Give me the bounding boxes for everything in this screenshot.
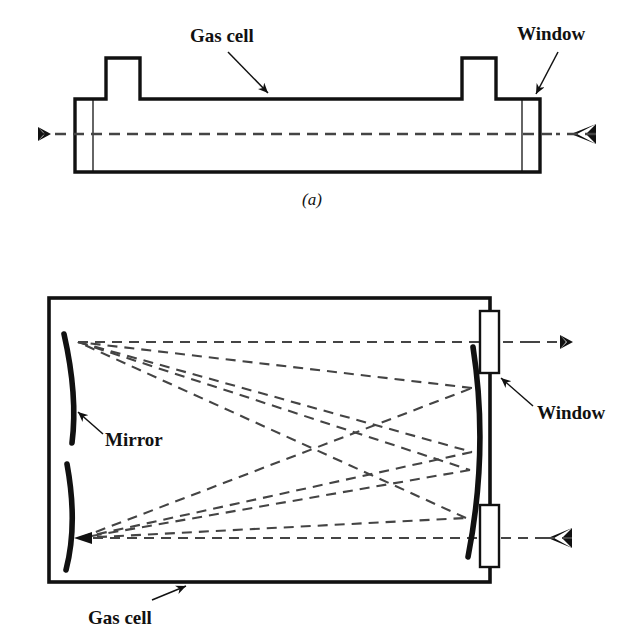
panel-a-gas-cell-label: Gas cell <box>190 25 254 46</box>
panel-a-window-leader <box>536 52 558 94</box>
panel-a-caption: (a) <box>302 190 322 209</box>
beam-focus-arrowhead <box>74 532 92 544</box>
panel-b-window-leader <box>501 378 533 406</box>
panel-a: Gas cell Window (a) <box>38 23 596 209</box>
panel-a-gas-cell-leader <box>228 52 268 93</box>
panel-b-gas-cell-leader <box>152 586 186 600</box>
panel-b: Window Mirror Gas cell <box>49 298 606 628</box>
cell-body-outline <box>75 58 540 172</box>
panel-a-window-label: Window <box>517 23 586 44</box>
panel-b-gas-cell-label: Gas cell <box>88 607 152 628</box>
beam-pass-5 <box>80 518 466 538</box>
beam-pass-3 <box>78 342 470 470</box>
panel-b-mirror-label: Mirror <box>105 429 163 450</box>
top-window <box>480 311 499 373</box>
figure-canvas: Gas cell Window (a) <box>0 0 624 630</box>
panel-b-mirror-leader <box>78 412 103 434</box>
panel-b-window-label: Window <box>537 402 606 423</box>
beam-pass-2 <box>78 342 472 388</box>
beam-pass-1 <box>80 388 472 538</box>
upper-left-mirror <box>64 334 74 443</box>
bottom-window <box>480 505 499 567</box>
lower-left-mirror <box>66 464 72 570</box>
